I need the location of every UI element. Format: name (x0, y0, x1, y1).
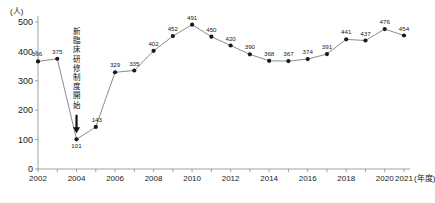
data-point-label: 329 (110, 61, 121, 68)
x-tick-label: 2020 (376, 174, 394, 183)
data-point-label: 454 (399, 25, 410, 32)
data-point-label: 491 (187, 14, 198, 21)
data-point-marker (306, 57, 310, 61)
data-point-marker (171, 34, 175, 38)
x-tick-label: 2002 (29, 174, 47, 183)
data-point-label: 420 (225, 35, 236, 42)
data-point-marker (113, 70, 117, 74)
data-point-label: 375 (52, 48, 63, 55)
data-point-marker (229, 43, 233, 47)
data-point-marker (36, 59, 40, 63)
svg-text:制: 制 (73, 72, 80, 82)
y-tick-label: 400 (18, 47, 33, 57)
data-point-marker (151, 49, 155, 53)
x-tick-label: 2008 (145, 174, 163, 183)
data-point-marker (286, 59, 290, 63)
data-point-marker (132, 68, 136, 72)
line-chart: (人)0100200300400500200220042006200820102… (0, 0, 435, 203)
x-tick-label: 2012 (222, 174, 240, 183)
svg-text:臨: 臨 (73, 35, 81, 45)
svg-text:研: 研 (73, 55, 81, 64)
data-point-label: 143 (92, 116, 103, 123)
x-tick-label: 2010 (183, 174, 201, 183)
y-tick-label: 100 (18, 135, 33, 145)
data-point-marker (383, 27, 387, 31)
data-point-marker (344, 37, 348, 41)
data-point-label: 476 (380, 18, 391, 25)
x-axis-unit-label: (年度) (414, 173, 435, 183)
data-point-label: 390 (245, 43, 256, 50)
x-tick-label: 2004 (68, 174, 86, 183)
data-point-label: 368 (264, 50, 275, 57)
y-tick-label: 500 (18, 17, 33, 27)
data-point-label: 366 (32, 50, 43, 57)
data-point-marker (402, 33, 406, 37)
data-point-marker (248, 52, 252, 56)
data-point-marker (267, 59, 271, 63)
data-point-label: 391 (322, 43, 333, 50)
y-axis-unit-label: (人) (10, 7, 24, 16)
y-tick-label: 300 (18, 76, 33, 86)
svg-text:度: 度 (73, 81, 81, 91)
data-point-label: 374 (303, 48, 314, 55)
annotation-text: 新臨床研修制度開始 (73, 26, 81, 110)
x-tick-label: 2014 (260, 174, 278, 183)
data-point-marker (55, 57, 59, 61)
data-point-label: 101 (71, 142, 82, 149)
x-tick-label: 2016 (299, 174, 317, 183)
y-tick-label: 0 (28, 164, 33, 174)
svg-text:開: 開 (73, 91, 80, 100)
data-point-marker (94, 125, 98, 129)
svg-text:始: 始 (73, 100, 81, 110)
data-point-marker (74, 137, 78, 141)
data-point-label: 450 (206, 26, 217, 33)
data-point-marker (325, 52, 329, 56)
x-tick-label: 2006 (106, 174, 124, 183)
svg-text:床: 床 (73, 44, 81, 54)
svg-text:新: 新 (73, 26, 81, 36)
chart-canvas: (人)0100200300400500200220042006200820102… (0, 0, 435, 203)
data-point-label: 367 (283, 50, 294, 57)
data-point-marker (209, 35, 213, 39)
x-tick-label: 2021 (395, 174, 413, 183)
data-point-marker (363, 38, 367, 42)
svg-text:修: 修 (73, 63, 81, 73)
x-tick-label: 2018 (337, 174, 355, 183)
data-point-label: 335 (129, 60, 140, 67)
data-point-label: 452 (168, 25, 179, 32)
data-point-label: 402 (148, 40, 159, 47)
y-tick-label: 200 (18, 105, 33, 115)
data-point-label: 437 (360, 30, 371, 37)
data-point-marker (190, 23, 194, 27)
data-point-label: 441 (341, 28, 352, 35)
